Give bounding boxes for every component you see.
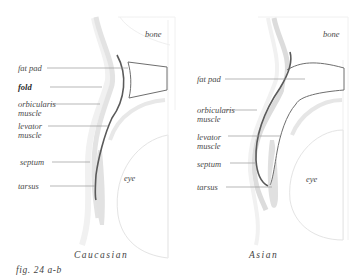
label-tarsus-a: tarsus bbox=[18, 182, 39, 191]
panel-asian bbox=[225, 17, 348, 245]
label-fat-pad-b: fat pad bbox=[197, 75, 221, 84]
label-eye-b: eye bbox=[306, 175, 317, 184]
label-bone-a: bone bbox=[145, 30, 162, 39]
label-septum-a: septum bbox=[20, 158, 44, 167]
label-fat-pad-a: fat pad bbox=[18, 64, 42, 73]
caption-caucasian: Caucasian bbox=[74, 250, 128, 260]
label-bone-b: bone bbox=[323, 30, 340, 39]
figure-number: fig. 24 a-b bbox=[16, 265, 62, 275]
eyelid-anatomy-diagram bbox=[0, 0, 361, 280]
label-eye-a: eye bbox=[124, 174, 135, 183]
label-orbicularis-muscle-b: muscle bbox=[197, 115, 221, 124]
label-fold-a: fold bbox=[18, 83, 32, 92]
label-levator-muscle-b: muscle bbox=[197, 142, 221, 151]
label-tarsus-b: tarsus bbox=[197, 183, 218, 192]
label-orbicularis-muscle-a: muscle bbox=[18, 109, 42, 118]
label-septum-b: septum bbox=[197, 160, 221, 169]
panel-caucasian bbox=[47, 17, 175, 258]
caption-asian: Asian bbox=[249, 250, 278, 260]
label-levator-muscle-a: muscle bbox=[18, 131, 42, 140]
